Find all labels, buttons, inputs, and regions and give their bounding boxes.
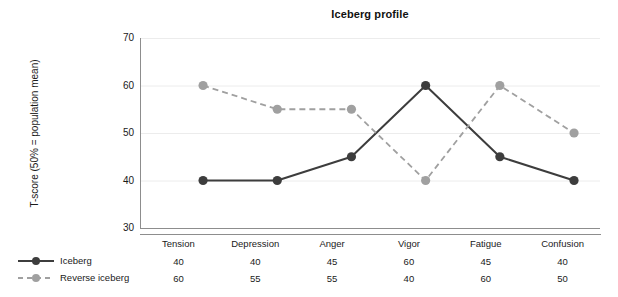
table-cell: 40	[140, 253, 217, 270]
data-point	[421, 81, 430, 90]
data-table-block: TensionDepressionAngerVigorFatigueConfus…	[140, 234, 601, 287]
table-header-cell: Confusion	[524, 235, 601, 253]
legend-item-iceberg: Iceberg	[18, 252, 143, 269]
legend-marker-solid-icon	[18, 254, 54, 268]
data-point	[569, 176, 578, 185]
table-header-row: TensionDepressionAngerVigorFatigueConfus…	[140, 235, 601, 253]
chart-figure: Iceberg profile T-score (50% = populatio…	[0, 0, 618, 297]
data-point	[347, 152, 356, 161]
table-header-cell: Depression	[217, 235, 294, 253]
table-header-cell: Vigor	[370, 235, 447, 253]
table-cell: 40	[217, 253, 294, 270]
table-cell: 45	[294, 253, 371, 270]
table-cell: 60	[447, 270, 524, 287]
table-cell: 60	[140, 270, 217, 287]
data-point	[347, 105, 356, 114]
legend-item-reverse-iceberg: Reverse iceberg	[18, 269, 143, 286]
chart-legend: Iceberg Reverse iceberg	[18, 252, 143, 286]
data-point	[421, 176, 430, 185]
legend-marker-dashed-icon	[18, 271, 54, 285]
table-cell: 60	[370, 253, 447, 270]
table-header-cell: Fatigue	[447, 235, 524, 253]
legend-label-reverse-iceberg: Reverse iceberg	[60, 272, 129, 283]
data-point	[273, 105, 282, 114]
table-cell: 55	[217, 270, 294, 287]
data-point	[495, 81, 504, 90]
table-row: 605555406050	[140, 270, 601, 287]
table-row: 404045604540	[140, 253, 601, 270]
data-point	[569, 128, 578, 137]
data-point	[198, 81, 207, 90]
table-cell: 40	[524, 253, 601, 270]
table-cell: 45	[447, 253, 524, 270]
data-table: TensionDepressionAngerVigorFatigueConfus…	[140, 235, 601, 287]
data-point	[273, 176, 282, 185]
table-header-cell: Tension	[140, 235, 217, 253]
data-point	[198, 176, 207, 185]
gridlines	[140, 39, 600, 182]
legend-label-iceberg: Iceberg	[60, 255, 92, 266]
table-cell: 40	[370, 270, 447, 287]
table-cell: 55	[294, 270, 371, 287]
table-cell: 50	[524, 270, 601, 287]
data-point	[495, 152, 504, 161]
table-header-cell: Anger	[294, 235, 371, 253]
